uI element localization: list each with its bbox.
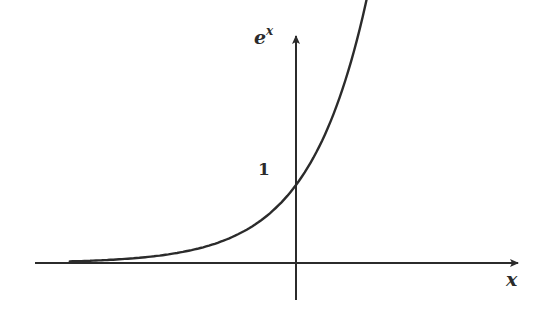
y-axis-label: ex bbox=[254, 26, 273, 48]
exp-curve bbox=[70, 0, 372, 261]
x-axis-label: x bbox=[506, 268, 517, 290]
y-tick-label-one: 1 bbox=[258, 159, 270, 179]
